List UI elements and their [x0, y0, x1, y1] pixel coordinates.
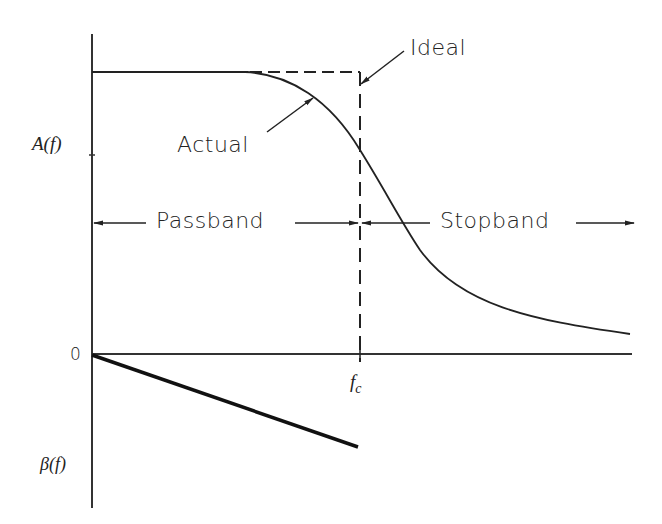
amplitude-axis-label: A(f): [32, 134, 62, 153]
passband-label: Passband: [156, 210, 264, 232]
cutoff-frequency-label: fc: [350, 372, 362, 396]
filter-response-figure: A(f) β(f) 0 fc Ideal Actual Passband Sto…: [0, 0, 662, 524]
ideal-label: Ideal: [410, 37, 466, 59]
diagram-canvas: [0, 0, 662, 524]
ideal-pointer-arrow: [361, 51, 404, 84]
phase-response-line: [92, 355, 358, 447]
zero-label: 0: [70, 346, 81, 363]
stopband-label: Stopband: [440, 210, 549, 232]
phase-axis-label: β(f): [40, 455, 66, 473]
actual-pointer-arrow: [267, 98, 313, 132]
actual-response-curve: [245, 72, 630, 334]
actual-label: Actual: [177, 134, 249, 156]
cutoff-frequency-subscript: c: [355, 381, 361, 396]
